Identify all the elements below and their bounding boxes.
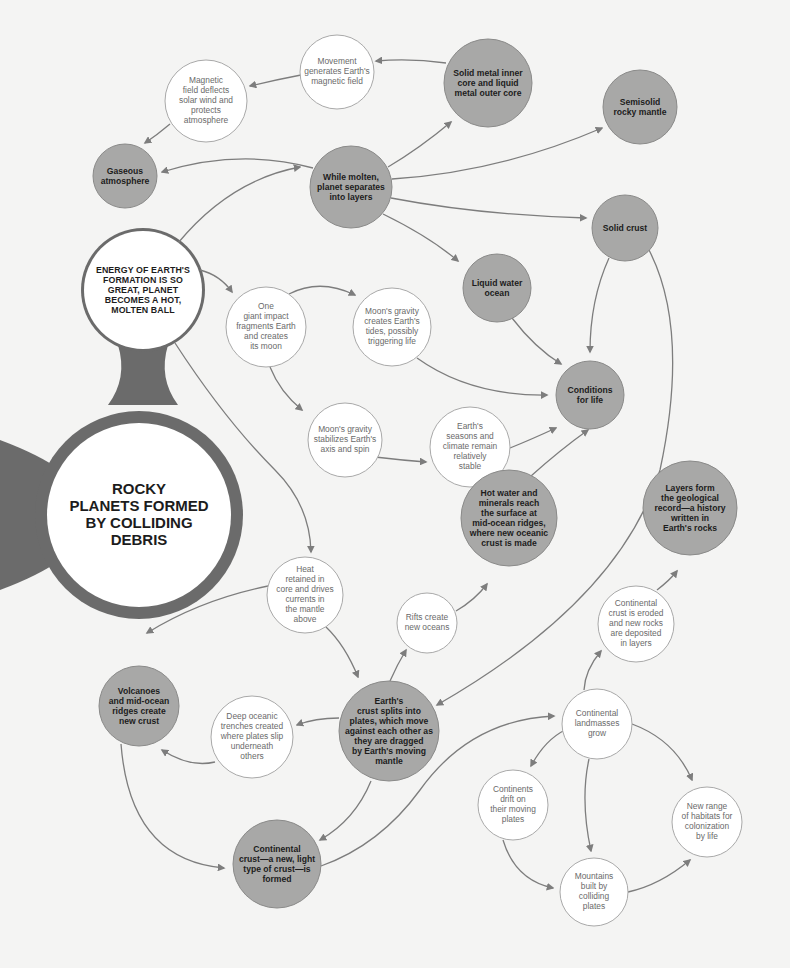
- node-circle-stabilizes: [308, 403, 382, 477]
- node-circle-landmasses: [562, 689, 632, 759]
- node-circle-volcanoes: [99, 666, 179, 746]
- node-circle-life: [556, 361, 624, 429]
- node-circle-trenches: [211, 696, 293, 778]
- node-circle-eroded: [598, 586, 674, 662]
- node-circle-molten: [310, 146, 392, 228]
- node-circle-contcrust: [233, 820, 321, 908]
- node-circle-layers: [643, 461, 737, 555]
- node-circle-mantle: [603, 70, 677, 144]
- node-circle-movement: [300, 35, 374, 109]
- node-circle-plates: [339, 681, 439, 781]
- node-circle-hub: [47, 423, 231, 607]
- node-circle-tides: [353, 288, 431, 366]
- node-circle-heat: [267, 557, 343, 633]
- node-circle-habitats: [672, 787, 742, 857]
- node-circle-magnetic: [165, 60, 247, 142]
- node-circle-atmosphere: [93, 144, 157, 208]
- node-circle-core: [444, 39, 532, 127]
- node-circle-impact: [226, 287, 306, 367]
- node-circle-drift: [478, 770, 548, 840]
- node-circle-hotwater: [461, 470, 557, 566]
- node-circle-ocean: [463, 254, 531, 322]
- node-circle-energy: [84, 231, 202, 349]
- node-circle-solidcrust: [592, 195, 658, 261]
- concept-map-canvas: [0, 0, 790, 968]
- node-circle-mountains: [560, 858, 628, 926]
- node-circle-rifts: [397, 593, 457, 653]
